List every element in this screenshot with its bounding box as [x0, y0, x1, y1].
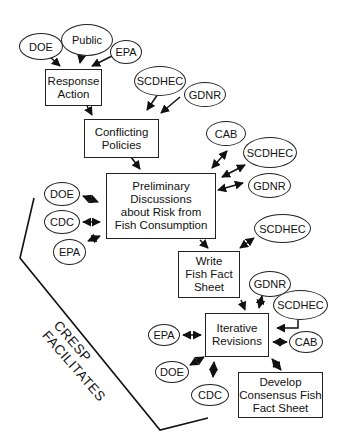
oval-gdnr-preliminary: GDNR [248, 173, 291, 198]
box-develop-consensus-fish-fact-sheet: Develop Consensus Fish Fact Sheet [238, 372, 323, 418]
oval-scdhec-conflicting: SCDHEC [134, 66, 186, 96]
oval-doe-preliminary: DOE [44, 182, 80, 206]
arrow-epa-to-response [92, 56, 112, 66]
oval-public-response: Public [61, 24, 113, 56]
oval-doe-iterative: DOE [155, 361, 189, 383]
arrow-response-to-conflicting [87, 106, 92, 115]
arrow-cdc-iterative [213, 362, 214, 377]
oval-cab-preliminary: CAB [206, 121, 246, 146]
oval-epa-iterative: EPA [148, 324, 180, 346]
arrow-preliminary-scdhec [222, 165, 245, 177]
arrow-preliminary-cab [212, 151, 227, 168]
oval-cdc-preliminary: CDC [44, 210, 80, 234]
oval-gdnr-conflicting: GDNR [184, 82, 226, 107]
arrow-doe-iterative [190, 357, 204, 365]
box-iterative-revisions: Iterative Revisions [205, 313, 269, 357]
oval-cdc-iterative: CDC [191, 384, 229, 406]
oval-doe-response: DOE [19, 33, 63, 60]
oval-scdhec-preliminary: SCDHEC [243, 137, 297, 168]
oval-epa-preliminary: EPA [53, 239, 86, 265]
arrow-write-scdhec [240, 238, 254, 248]
box-response-action: Response Action [45, 69, 102, 106]
arrow-gdnr-to-conflicting [161, 97, 180, 113]
arrow-doe-preliminary [83, 196, 98, 202]
oval-scdhec-iterative: SCDHEC [273, 290, 328, 320]
oval-epa-response: EPA [110, 40, 142, 64]
arrow-write-to-iterative [241, 300, 245, 310]
arrow-preliminary-to-write [200, 240, 208, 248]
box-conflicting-policies: Conflicting Policies [84, 119, 159, 158]
arrow-conflicting-to-preliminary [131, 157, 140, 169]
box-write-fish-fact-sheet: Write Fish Fact Sheet [178, 251, 240, 298]
arrow-scdhec-to-conflicting [147, 94, 158, 110]
box-preliminary-discussions: Preliminary Discussions about Risk from … [106, 173, 216, 239]
arrow-preliminary-gdnr [218, 183, 243, 190]
arrow-epa-preliminary [88, 236, 100, 241]
arrow-iterative-develop [272, 359, 281, 370]
oval-cab-iterative: CAB [289, 331, 323, 353]
oval-scdhec-write: SCDHEC [254, 214, 311, 243]
arrow-gdnr-iterative [259, 296, 262, 308]
